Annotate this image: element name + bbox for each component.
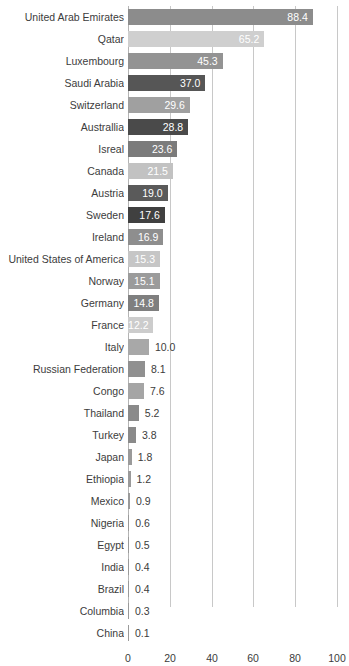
bar-value-label: 7.6 bbox=[150, 380, 165, 402]
bar-value-label: 37.0 bbox=[128, 72, 200, 94]
bar-track: 10.0 bbox=[128, 336, 349, 358]
bar-track: 37.0 bbox=[128, 72, 349, 94]
bar[interactable] bbox=[128, 449, 132, 465]
bar-value-label: 23.6 bbox=[128, 138, 172, 160]
bar-row: Australlia28.8 bbox=[0, 116, 349, 138]
category-label: Qatar bbox=[0, 28, 124, 50]
bar-track: 12.2 bbox=[128, 314, 349, 336]
bar-row: Columbia0.3 bbox=[0, 600, 349, 622]
x-axis: 020406080100 bbox=[0, 650, 349, 666]
bar-track: 28.8 bbox=[128, 116, 349, 138]
bar-value-label: 29.6 bbox=[128, 94, 185, 116]
x-tick-label: 40 bbox=[197, 652, 227, 664]
category-label: Japan bbox=[0, 446, 124, 468]
category-label: Luxembourg bbox=[0, 50, 124, 72]
bar[interactable] bbox=[128, 383, 144, 399]
bar-track: 88.4 bbox=[128, 6, 349, 28]
bar[interactable] bbox=[128, 405, 139, 421]
category-label: Nigeria bbox=[0, 512, 124, 534]
category-label: Brazil bbox=[0, 578, 124, 600]
bar-row: Italy10.0 bbox=[0, 336, 349, 358]
bar[interactable] bbox=[128, 471, 131, 487]
bar-track: 14.8 bbox=[128, 292, 349, 314]
bar-row: Ireland16.9 bbox=[0, 226, 349, 248]
x-tick-label: 60 bbox=[238, 652, 268, 664]
bar-value-label: 16.9 bbox=[128, 226, 158, 248]
bar-value-label: 8.1 bbox=[151, 358, 166, 380]
category-label: Sweden bbox=[0, 204, 124, 226]
bar-row: France12.2 bbox=[0, 314, 349, 336]
bar[interactable] bbox=[128, 581, 129, 597]
bar-row: Nigeria0.6 bbox=[0, 512, 349, 534]
bar-track: 1.2 bbox=[128, 468, 349, 490]
x-tick-label: 100 bbox=[322, 652, 349, 664]
bar-value-label: 5.2 bbox=[145, 402, 160, 424]
category-label: Ethiopia bbox=[0, 468, 124, 490]
bar-value-label: 0.9 bbox=[136, 490, 151, 512]
category-label: Italy bbox=[0, 336, 124, 358]
bar-row: Qatar65.2 bbox=[0, 28, 349, 50]
category-label: France bbox=[0, 314, 124, 336]
bar-row: Canada21.5 bbox=[0, 160, 349, 182]
x-tick-label: 20 bbox=[155, 652, 185, 664]
bar-row: Turkey3.8 bbox=[0, 424, 349, 446]
bar-row: Germany14.8 bbox=[0, 292, 349, 314]
bar-track: 45.3 bbox=[128, 50, 349, 72]
category-label: India bbox=[0, 556, 124, 578]
bar[interactable] bbox=[128, 537, 129, 553]
category-label: Austria bbox=[0, 182, 124, 204]
bar[interactable] bbox=[128, 339, 149, 355]
category-label: Russian Federation bbox=[0, 358, 124, 380]
bar[interactable] bbox=[128, 427, 136, 443]
bar-track: 0.6 bbox=[128, 512, 349, 534]
bar[interactable] bbox=[128, 361, 145, 377]
bar-value-label: 21.5 bbox=[128, 160, 168, 182]
bar-track: 8.1 bbox=[128, 358, 349, 380]
bar-row: Sweden17.6 bbox=[0, 204, 349, 226]
category-label: Canada bbox=[0, 160, 124, 182]
category-label: Germany bbox=[0, 292, 124, 314]
bar-value-label: 15.3 bbox=[128, 248, 155, 270]
bar-track: 0.5 bbox=[128, 534, 349, 556]
category-label: Congo bbox=[0, 380, 124, 402]
bar-row: Luxembourg45.3 bbox=[0, 50, 349, 72]
bar-value-label: 10.0 bbox=[155, 336, 175, 358]
bar-value-label: 0.4 bbox=[135, 578, 150, 600]
bar-row: Isreal23.6 bbox=[0, 138, 349, 160]
bar-track: 0.4 bbox=[128, 578, 349, 600]
category-label: Saudi Arabia bbox=[0, 72, 124, 94]
bar-value-label: 0.1 bbox=[135, 622, 150, 644]
x-tick-label: 80 bbox=[280, 652, 310, 664]
bar-track: 0.4 bbox=[128, 556, 349, 578]
bar-row: Austria19.0 bbox=[0, 182, 349, 204]
bar-value-label: 12.2 bbox=[128, 314, 148, 336]
bar-track: 1.8 bbox=[128, 446, 349, 468]
bar-row: Switzerland29.6 bbox=[0, 94, 349, 116]
bar[interactable] bbox=[128, 559, 129, 575]
bar[interactable] bbox=[128, 625, 129, 641]
bar-value-label: 0.4 bbox=[135, 556, 150, 578]
bar[interactable] bbox=[128, 493, 130, 509]
bar-value-label: 28.8 bbox=[128, 116, 183, 138]
category-label: China bbox=[0, 622, 124, 644]
category-label: Switzerland bbox=[0, 94, 124, 116]
x-tick-label: 0 bbox=[113, 652, 143, 664]
bar-value-label: 19.0 bbox=[128, 182, 163, 204]
bar-track: 17.6 bbox=[128, 204, 349, 226]
bar-row: India0.4 bbox=[0, 556, 349, 578]
category-label: United Arab Emirates bbox=[0, 6, 124, 28]
bar-value-label: 88.4 bbox=[128, 6, 308, 28]
category-label: Norway bbox=[0, 270, 124, 292]
bar-track: 19.0 bbox=[128, 182, 349, 204]
bar[interactable] bbox=[128, 515, 129, 531]
bar[interactable] bbox=[128, 603, 129, 619]
bar-track: 21.5 bbox=[128, 160, 349, 182]
bar-value-label: 3.8 bbox=[142, 424, 157, 446]
bar-track: 15.3 bbox=[128, 248, 349, 270]
bar-value-label: 14.8 bbox=[128, 292, 154, 314]
bar-track: 0.9 bbox=[128, 490, 349, 512]
category-label: Australlia bbox=[0, 116, 124, 138]
bar-track: 65.2 bbox=[128, 28, 349, 50]
bar-track: 7.6 bbox=[128, 380, 349, 402]
category-label: Isreal bbox=[0, 138, 124, 160]
